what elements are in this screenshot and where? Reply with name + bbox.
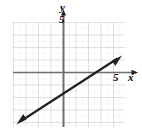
x-axis-label: x	[128, 72, 134, 83]
grid-major	[13, 22, 125, 127]
coordinate-plane-svg	[0, 0, 142, 135]
x-axis-tick-label-5: 5	[113, 72, 119, 83]
y-axis-tick-label-5: 5	[59, 14, 65, 25]
y-axis-label: y	[60, 2, 65, 13]
graph-figure: y 5 x 5	[0, 0, 142, 135]
